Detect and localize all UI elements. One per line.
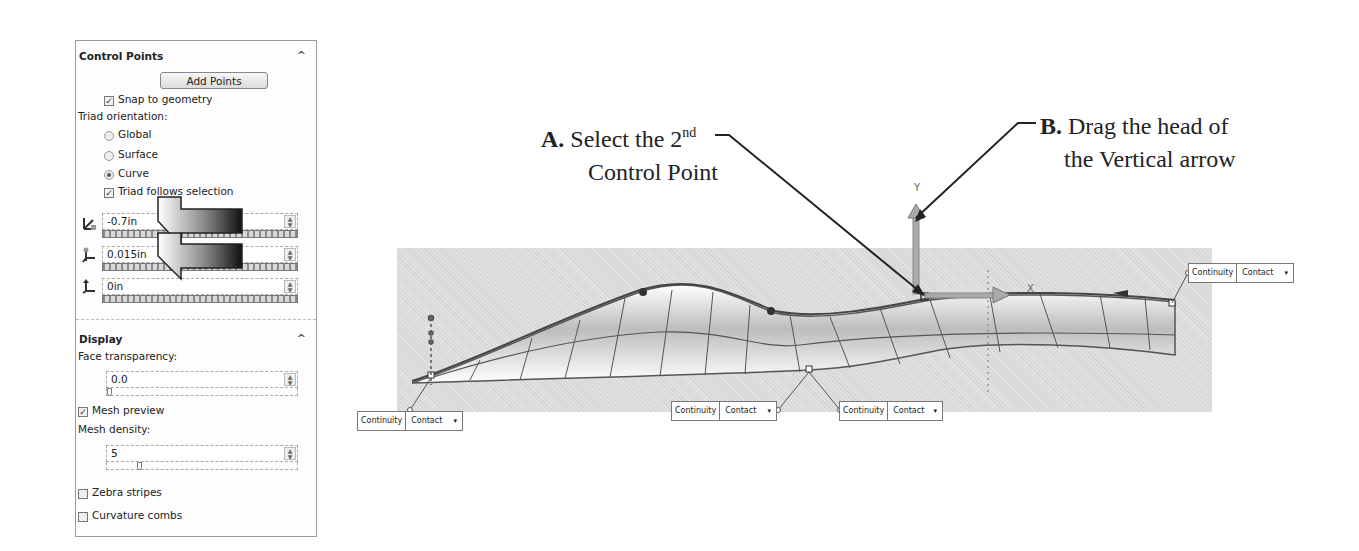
mid-point[interactable] — [806, 366, 812, 372]
continuity-label: Continuity — [672, 402, 720, 420]
continuity-label: Continuity — [1189, 264, 1237, 282]
continuity-box-middle-right[interactable]: Continuity Contact ▾ — [839, 401, 943, 421]
control-point-1[interactable] — [639, 288, 647, 296]
leader-line-a — [715, 135, 924, 295]
leader-line-b — [916, 123, 1036, 218]
continuity-box-left-end[interactable]: Continuity Contact ▾ — [357, 411, 463, 431]
continuity-dropdown[interactable]: Contact — [720, 402, 767, 420]
chevron-down-icon[interactable]: ▾ — [933, 402, 942, 420]
triad-x-label: X — [1027, 283, 1034, 294]
continuity-dropdown[interactable]: Contact — [406, 412, 453, 430]
continuity-label: Continuity — [840, 402, 888, 420]
continuity-dropdown[interactable]: Contact — [1237, 264, 1284, 282]
chevron-down-icon[interactable]: ▾ — [1284, 264, 1293, 282]
surface-geometry — [0, 0, 1359, 551]
chevron-down-icon[interactable]: ▾ — [453, 412, 462, 430]
continuity-dropdown[interactable]: Contact — [888, 402, 933, 420]
continuity-label: Continuity — [358, 412, 406, 430]
triad-y-label: Y — [914, 182, 920, 193]
continuity-box-right-end[interactable]: Continuity Contact ▾ — [1188, 263, 1294, 283]
control-point-3[interactable] — [767, 307, 775, 315]
continuity-box-middle-left[interactable]: Continuity Contact ▾ — [671, 401, 777, 421]
chevron-down-icon[interactable]: ▾ — [767, 402, 776, 420]
